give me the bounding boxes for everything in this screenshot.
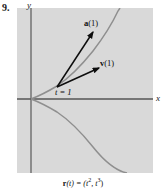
y-axis-label: y bbox=[27, 1, 31, 10]
plot-svg bbox=[17, 8, 153, 173]
curve-lower-branch bbox=[31, 99, 127, 173]
curve-upper-branch bbox=[31, 8, 120, 99]
problem-number-label: 9. bbox=[2, 2, 10, 13]
caption-suffix: ) bbox=[100, 179, 103, 188]
figure-caption: r(t) = (t2, t3) bbox=[0, 180, 166, 188]
acceleration-vector-label: a(1) bbox=[84, 19, 98, 28]
parameter-point-label: t = 1 bbox=[55, 88, 72, 97]
x-axis-label: x bbox=[156, 94, 160, 103]
acceleration-argument: (1) bbox=[88, 18, 98, 28]
figure-container: 9. y x a(1) v(1) t = 1 r(t) = (t bbox=[0, 0, 166, 195]
velocity-vector-label: v(1) bbox=[100, 59, 114, 68]
caption-body: (t) = (t bbox=[66, 179, 88, 188]
plot-panel bbox=[17, 8, 153, 173]
velocity-argument: (1) bbox=[104, 58, 114, 68]
